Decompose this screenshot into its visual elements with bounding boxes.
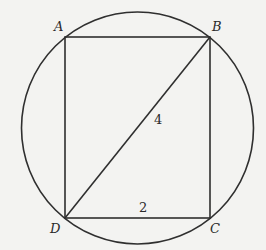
vertex-label-d: D	[50, 221, 60, 236]
figure-canvas	[0, 0, 266, 250]
vertex-label-a: A	[54, 19, 63, 34]
vertex-label-b: B	[212, 19, 222, 34]
side-length-label: 2	[139, 200, 147, 215]
geometry-figure: A B C D 4 2	[0, 0, 266, 250]
vertex-label-c: C	[210, 221, 220, 236]
diagonal-length-label: 4	[154, 112, 162, 127]
diagonal-bd	[65, 37, 210, 218]
